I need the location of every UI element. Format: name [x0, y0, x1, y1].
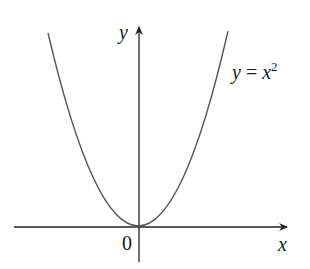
eq-exponent: 2 — [271, 59, 278, 74]
origin-label: 0 — [122, 233, 132, 253]
y-axis-label: y — [119, 22, 128, 42]
parabola-curve — [48, 31, 228, 226]
eq-x: x — [262, 61, 271, 83]
eq-sign: = — [246, 61, 257, 83]
eq-y: y — [232, 61, 241, 83]
x-axis-label: x — [278, 234, 287, 254]
parabola-plot — [0, 0, 310, 269]
curve-equation-label: y = x2 — [232, 60, 278, 82]
